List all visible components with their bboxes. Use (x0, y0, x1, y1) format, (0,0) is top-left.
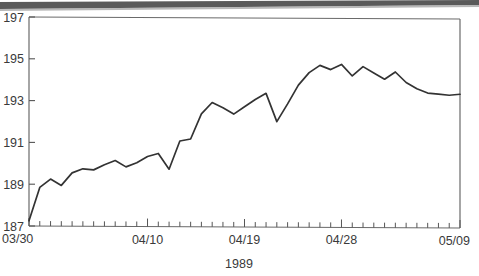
x-tick-label-04-28: 04/28 (326, 233, 357, 247)
y-tick-label-189: 189 (3, 178, 24, 192)
date-axis-labels: 03/3004/1004/1904/2805/09 (2, 232, 470, 248)
plot-frame (29, 17, 460, 228)
y-tick-label-197: 197 (3, 11, 24, 25)
series-line-index (29, 64, 460, 220)
x-tick-label-04-10: 04/10 (132, 233, 163, 247)
y-tick-label-191: 191 (3, 136, 24, 150)
x-tick-label-04-19: 04/19 (229, 233, 260, 247)
y-tick-label-193: 193 (3, 94, 24, 108)
x-axis-caption: 1989 (225, 257, 253, 271)
chart-figure: 187189191193195197 03/3004/1004/1904/280… (0, 0, 479, 276)
y-tick-label-195: 195 (3, 52, 24, 66)
line-chart: 187189191193195197 03/3004/1004/1904/280… (0, 0, 479, 276)
value-axis: 187189191193195197 (3, 11, 35, 234)
x-tick-label-03-30: 03/30 (2, 232, 33, 246)
series-group (29, 64, 460, 220)
x-tick-label-05-09: 05/09 (439, 234, 470, 248)
scan-artifact (0, 0, 479, 11)
